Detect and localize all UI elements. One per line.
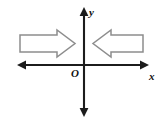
right-block-arrow-pointing-left	[93, 30, 143, 57]
origin-label: O	[71, 67, 79, 79]
coordinate-diagram: y x O	[0, 0, 162, 126]
x-axis-label: x	[148, 70, 155, 82]
y-axis-top-arrowhead	[80, 7, 89, 16]
y-axis-bottom-arrowhead	[80, 108, 89, 117]
x-axis-left-arrowhead	[17, 61, 26, 70]
left-block-arrow-pointing-right	[20, 30, 75, 57]
figure-canvas: y x O	[0, 0, 162, 126]
y-axis-label: y	[87, 6, 94, 18]
x-axis-right-arrowhead	[140, 61, 149, 70]
